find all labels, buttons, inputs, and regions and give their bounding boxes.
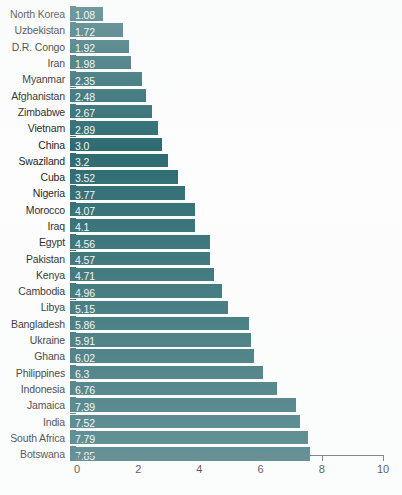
bar-value-label: 6.76 [75,384,95,396]
bar-row: India7.52 [0,413,402,429]
bar-row: Zimbabwe2.67 [0,104,402,120]
bar-track: 1.72 [70,22,402,38]
category-label: Philippines [0,367,70,379]
bar-row: Bangladesh5.86 [0,316,402,332]
y-axis-tick [70,267,76,268]
y-axis-tick [70,299,76,300]
bar-row: Ukraine5.91 [0,332,402,348]
category-label: South Africa [0,432,70,444]
bar: 7.39 [70,398,296,411]
bar: 2.89 [70,121,158,134]
bar: 4.57 [70,252,210,265]
bar-row: Afghanistan2.48 [0,87,402,103]
category-label: Egypt [0,236,70,248]
y-axis-tick [70,365,76,366]
bar-track: 6.76 [70,381,402,397]
category-label: China [0,139,70,151]
category-label: Uzbekistan [0,24,70,36]
bar-value-label: 1.08 [75,9,95,21]
bar-row: Ghana6.02 [0,348,402,364]
category-label: Iran [0,57,70,69]
y-axis-tick [70,169,76,170]
bar-value-label: 4.07 [75,205,95,217]
bar-value-label: 7.39 [75,401,95,413]
bar-value-label: 5.91 [75,335,95,347]
bar: 3.52 [70,170,178,183]
bar: 4.96 [70,284,222,297]
bar: 6.76 [70,382,277,395]
bar-track: 4.56 [70,234,402,250]
bar-track: 4.1 [70,218,402,234]
bar-row: Egypt4.56 [0,234,402,250]
bar-value-label: 4.57 [75,254,95,266]
x-axis-tick [383,455,384,461]
bar-value-label: 5.86 [75,319,95,331]
bar-value-label: 7.52 [75,417,95,429]
bar: 4.71 [70,268,214,281]
y-axis-tick [70,55,76,56]
y-axis-tick [70,71,76,72]
category-label: Myanmar [0,73,70,85]
category-label: India [0,416,70,428]
bar: 4.1 [70,219,195,232]
bar: 1.08 [70,7,103,20]
bar-value-label: 7.79 [75,433,95,445]
x-axis-tick [322,455,323,461]
category-label: Cambodia [0,285,70,297]
category-label: North Korea [0,8,70,20]
bar-track: 2.67 [70,104,402,120]
bar-track: 6.3 [70,365,402,381]
bar-row: North Korea1.08 [0,6,402,22]
category-label: Cuba [0,171,70,183]
bar-value-label: 2.35 [75,75,95,87]
bar-row: Cuba3.52 [0,169,402,185]
bar-value-label: 3.2 [75,156,89,168]
bar-value-label: 5.15 [75,303,95,315]
bar-track: 3.52 [70,169,402,185]
bar: 3.2 [70,154,168,167]
bar-row: Pakistan4.57 [0,250,402,266]
category-label: Vietnam [0,122,70,134]
bar: 6.3 [70,366,263,379]
y-axis-tick [70,397,76,398]
bar-row: Myanmar2.35 [0,71,402,87]
y-axis-tick [70,218,76,219]
y-axis-tick [70,39,76,40]
y-axis-tick [70,120,76,121]
bar-row: Kenya4.71 [0,267,402,283]
bar: 2.35 [70,72,142,85]
bar-row: D.R. Congo1.92 [0,39,402,55]
bar-track: 4.07 [70,202,402,218]
category-label: Nigeria [0,187,70,199]
bar-row: Iran1.98 [0,55,402,71]
bar-track: 4.71 [70,267,402,283]
y-axis-tick [70,316,76,317]
bar-track: 3.2 [70,153,402,169]
bar: 7.79 [70,431,308,444]
y-axis-tick [70,234,76,235]
category-label: Libya [0,301,70,313]
x-axis-tick-label: 0 [74,463,80,476]
x-axis-tick-label: 6 [258,463,264,476]
category-label: Zimbabwe [0,106,70,118]
bar-track: 1.92 [70,39,402,55]
bar-row: Iraq4.1 [0,218,402,234]
bar-track: 7.39 [70,397,402,413]
bar: 5.15 [70,301,228,314]
bar-row: Vietnam2.89 [0,120,402,136]
x-axis-tick-label: 2 [135,463,141,476]
category-label: D.R. Congo [0,41,70,53]
bar-track: 4.57 [70,250,402,266]
y-axis-tick [70,332,76,333]
bar-row: Nigeria3.77 [0,185,402,201]
bar-track: 3.0 [70,136,402,152]
bar-row: South Africa7.79 [0,430,402,446]
y-axis-tick [70,153,76,154]
bar-track: 1.08 [70,6,402,22]
category-label: Iraq [0,220,70,232]
bar: 5.91 [70,333,251,346]
bar: 4.07 [70,203,195,216]
bar-value-label: 4.71 [75,270,95,282]
bar-track: 7.79 [70,430,402,446]
bar: 1.92 [70,40,129,53]
